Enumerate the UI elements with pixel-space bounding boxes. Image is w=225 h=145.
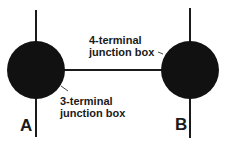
node-label-a: A <box>20 117 32 134</box>
callout-3-terminal: 3-terminal junction box <box>60 95 125 119</box>
callout-4-terminal: 4-terminal junction box <box>89 34 154 58</box>
junction-box-a <box>7 41 65 99</box>
junction-box-diagram <box>0 0 225 145</box>
callout-3-terminal-line2: junction box <box>60 107 125 119</box>
callout-4-terminal-line2: junction box <box>89 46 154 58</box>
leader-line-a <box>61 86 68 91</box>
callout-4-terminal-line1: 4-terminal <box>89 34 154 46</box>
callout-3-terminal-line1: 3-terminal <box>60 95 125 107</box>
node-label-b: B <box>175 116 187 133</box>
leader-line-b <box>158 52 163 54</box>
junction-box-b <box>161 41 219 99</box>
